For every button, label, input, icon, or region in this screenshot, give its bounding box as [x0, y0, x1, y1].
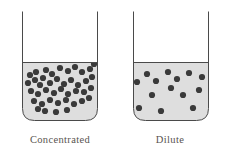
solute-particle [31, 98, 37, 104]
solute-particle [168, 85, 174, 91]
solute-particle [32, 77, 38, 83]
solute-particle [71, 101, 77, 107]
solute-particle [63, 97, 69, 103]
solute-particle [35, 106, 41, 112]
solute-particle [28, 88, 34, 94]
solute-particle [33, 69, 39, 75]
solute-particle [149, 92, 155, 98]
solute-particle [165, 69, 171, 75]
solute-particle [174, 76, 180, 82]
solute-particle [86, 95, 92, 101]
solute-particle [39, 101, 45, 107]
solute-particle [72, 64, 78, 70]
solute-particle [37, 82, 43, 88]
beaker-dilute: Dilute [134, 12, 209, 146]
solute-particle [49, 71, 55, 77]
solute-particle [134, 79, 140, 85]
solute-particle [64, 107, 70, 113]
solute-particle [153, 78, 159, 84]
beaker-concentrated: Concentrated [23, 12, 98, 146]
solute-particle [83, 78, 89, 84]
caption-dilute: Dilute [156, 134, 184, 145]
caption-concentrated: Concentrated [30, 134, 91, 145]
solute-particle [43, 67, 49, 73]
solute-particle [53, 109, 59, 115]
solute-particle [54, 76, 60, 82]
solute-particle [186, 70, 192, 76]
solute-particle [88, 85, 94, 91]
solute-particle [65, 91, 71, 97]
solute-particle [79, 69, 85, 75]
solute-particle [73, 88, 79, 94]
solute-particle [25, 80, 31, 86]
solute-particle [75, 82, 81, 88]
solute-particle [91, 61, 97, 67]
solute-particle [87, 66, 93, 72]
solute-particle [55, 100, 61, 106]
solute-particle [35, 91, 41, 97]
solute-particle [65, 68, 71, 74]
solute-particle [199, 74, 205, 80]
solute-particle [47, 80, 53, 86]
solute-particle [27, 72, 33, 78]
solute-particle [43, 87, 49, 93]
solute-particle [58, 86, 64, 92]
solute-particle [42, 108, 48, 114]
solute-particle [57, 65, 63, 71]
solute-particle [196, 87, 202, 93]
solute-particle [180, 92, 186, 98]
figure-container: Concentrated Dilute [0, 0, 228, 155]
solute-particle [79, 98, 85, 104]
solute-particle [40, 75, 46, 81]
solute-particle [51, 90, 57, 96]
solute-particle [81, 89, 87, 95]
solute-particle [136, 105, 142, 111]
solute-particle [158, 108, 164, 114]
solute-particle [89, 74, 95, 80]
solution-comparison-diagram: Concentrated Dilute [0, 0, 228, 155]
solute-particle [68, 77, 74, 83]
solute-particle [47, 97, 53, 103]
solute-particle [190, 105, 196, 111]
solute-particle [144, 71, 150, 77]
